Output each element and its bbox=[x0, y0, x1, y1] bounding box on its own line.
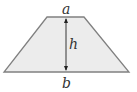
label-h: h bbox=[69, 36, 78, 52]
label-b: b bbox=[62, 75, 71, 91]
label-a: a bbox=[62, 1, 70, 17]
trapezoid-shape bbox=[4, 17, 129, 72]
trapezoid-diagram: a h b bbox=[0, 0, 137, 92]
